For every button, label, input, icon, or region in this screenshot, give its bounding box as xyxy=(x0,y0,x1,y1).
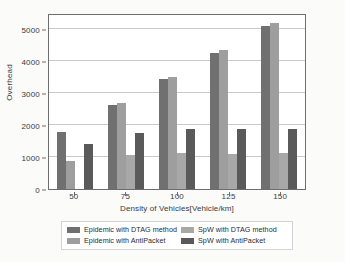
bar xyxy=(186,129,195,189)
y-tick-mark xyxy=(42,62,46,63)
x-tick-mark xyxy=(125,192,126,196)
bar xyxy=(84,144,93,189)
bar-group xyxy=(210,15,246,189)
bar-groups xyxy=(49,15,305,189)
legend-entry: Epidemic with AntiPacket xyxy=(67,236,177,245)
bar xyxy=(108,105,117,189)
bar xyxy=(279,153,288,189)
legend-entry: SpW with DTAG method xyxy=(181,225,287,234)
bar xyxy=(117,103,126,189)
x-tick-mark xyxy=(280,192,281,196)
y-tick-mark xyxy=(42,94,46,95)
legend-label: Epidemic with DTAG method xyxy=(84,225,177,234)
bar xyxy=(261,26,270,189)
bar xyxy=(168,77,177,189)
legend-label: SpW with DTAG method xyxy=(198,225,277,234)
y-tick-mark xyxy=(42,30,46,31)
bar xyxy=(270,23,279,189)
bar xyxy=(219,50,228,189)
x-tick-mark xyxy=(177,192,178,196)
bar xyxy=(237,129,246,189)
bar xyxy=(210,53,219,189)
bar xyxy=(126,155,135,189)
bar xyxy=(288,129,297,189)
y-tick-label: 3000 xyxy=(21,90,40,99)
y-axis-ticks: 010002000300040005000 xyxy=(0,14,46,190)
legend-swatch xyxy=(67,238,80,244)
y-tick-mark xyxy=(42,158,46,159)
y-tick-label: 2000 xyxy=(21,122,40,131)
chart-figure: 010002000300040005000 Overhead 507510012… xyxy=(0,0,345,262)
legend-swatch xyxy=(181,227,194,233)
bar-group xyxy=(159,15,195,189)
bar-group xyxy=(57,15,93,189)
y-tick-label: 4000 xyxy=(21,58,40,67)
y-tick-label: 1000 xyxy=(21,154,40,163)
bar xyxy=(228,154,237,189)
x-axis-title: Density of Vehicles[Vehicle/km] xyxy=(48,204,306,213)
bar xyxy=(57,132,66,189)
bar xyxy=(135,133,144,189)
legend-entry: SpW with AntiPacket xyxy=(181,236,287,245)
bar xyxy=(177,153,186,189)
legend-label: SpW with AntiPacket xyxy=(198,236,265,245)
bar xyxy=(159,79,168,189)
legend-swatch xyxy=(67,227,80,233)
chart-legend: Epidemic with DTAG methodSpW with DTAG m… xyxy=(61,221,293,250)
bar-group xyxy=(261,15,297,189)
y-tick-label: 5000 xyxy=(21,26,40,35)
plot-area xyxy=(48,14,306,190)
y-tick-mark xyxy=(42,126,46,127)
legend-swatch xyxy=(181,238,194,244)
legend-label: Epidemic with AntiPacket xyxy=(84,236,166,245)
y-tick-mark xyxy=(42,190,46,191)
legend-entry: Epidemic with DTAG method xyxy=(67,225,177,234)
x-tick-mark xyxy=(229,192,230,196)
y-tick-label: 0 xyxy=(35,186,40,195)
x-tick-mark xyxy=(74,192,75,196)
bar-group xyxy=(108,15,144,189)
bar xyxy=(66,161,75,189)
y-axis-title: Overhead xyxy=(5,64,14,101)
